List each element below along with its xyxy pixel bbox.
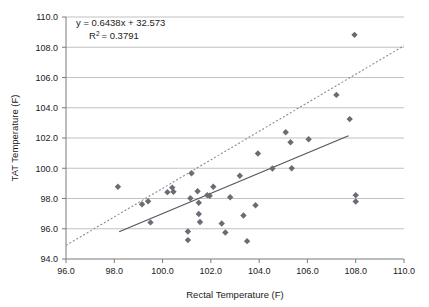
y-tick-label: 100.0 — [35, 164, 58, 174]
x-tick-label: 96.0 — [57, 266, 75, 276]
y-tick-label: 96.0 — [40, 224, 58, 234]
scatter-chart: 94.096.098.0100.0102.0104.0106.0108.0110… — [0, 0, 429, 307]
r-squared-exponent: 2 — [96, 30, 100, 37]
y-tick-label: 102.0 — [35, 133, 58, 143]
y-tick-label: 94.0 — [40, 254, 58, 264]
x-tick-label: 102.0 — [200, 266, 223, 276]
x-tick-label: 110.0 — [393, 266, 415, 276]
x-tick-label: 98.0 — [106, 266, 124, 276]
x-axis-title: Rectal Temperature (F) — [186, 289, 284, 300]
y-tick-label: 108.0 — [35, 43, 58, 53]
y-tick-label: 104.0 — [35, 103, 58, 113]
x-tick-label: 104.0 — [248, 266, 271, 276]
regression-equation-label: y = 0.6438x + 32.573 — [76, 17, 165, 28]
x-tick-label: 100.0 — [151, 266, 174, 276]
y-tick-label: 98.0 — [40, 194, 58, 204]
x-tick-label: 106.0 — [296, 266, 319, 276]
chart-background — [0, 0, 429, 307]
y-tick-label: 106.0 — [35, 73, 58, 83]
x-tick-label: 108.0 — [344, 266, 367, 276]
y-axis-title: TAT Temperature (F) — [9, 95, 20, 182]
y-tick-label: 110.0 — [36, 12, 58, 22]
r-squared-value: = 0.3791 — [102, 30, 139, 41]
